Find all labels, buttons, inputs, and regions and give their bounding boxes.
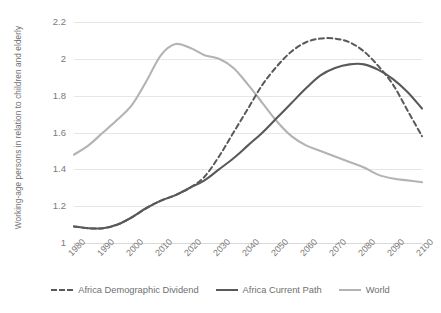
y-axis-tick-1.6: 1.6: [26, 127, 66, 138]
gridline-y: [74, 133, 422, 134]
y-axis-tick-2: 2: [26, 53, 66, 64]
legend-label: Africa Current Path: [243, 285, 322, 295]
chart-legend: Africa Demographic DividendAfrica Curren…: [0, 285, 441, 295]
legend-label: Africa Demographic Dividend: [78, 285, 198, 295]
y-axis-tick-1: 1: [26, 237, 66, 248]
legend-item-africa-current-path[interactable]: Africa Current Path: [216, 285, 322, 295]
gridline-y: [74, 169, 422, 170]
y-axis-tick-1.2: 1.2: [26, 200, 66, 211]
legend-item-africa-demographic-dividend[interactable]: Africa Demographic Dividend: [51, 285, 198, 295]
y-axis-label: Working-age persons in relation to child…: [13, 24, 24, 232]
gridline-y: [74, 206, 422, 207]
y-axis-tick-1.4: 1.4: [26, 163, 66, 174]
gridline-y: [74, 59, 422, 60]
gridlines: [74, 22, 422, 243]
y-axis-tick-1.8: 1.8: [26, 90, 66, 101]
gridline-y: [74, 22, 422, 23]
y-axis-tick-2.2: 2.2: [26, 16, 66, 27]
legend-swatch-solid-icon: [339, 289, 361, 291]
legend-swatch-dashed-icon: [51, 289, 73, 291]
legend-swatch-solid-icon: [216, 289, 238, 291]
gridline-y: [74, 96, 422, 97]
x-axis-tick-1980: 1980: [66, 237, 87, 258]
legend-item-world[interactable]: World: [339, 285, 390, 295]
legend-label: World: [366, 285, 390, 295]
population-dependency-line-chart: Working-age persons in relation to child…: [0, 0, 441, 313]
